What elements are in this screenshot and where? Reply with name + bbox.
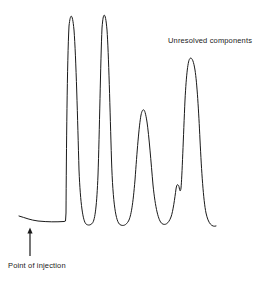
injection-arrow xyxy=(27,228,32,257)
unresolved-components-label: Unresolved components xyxy=(168,36,252,46)
chromatogram-trace-line xyxy=(19,15,216,226)
point-of-injection-label: Point of injection xyxy=(8,261,66,271)
injection-arrow-head xyxy=(27,228,32,234)
chromatogram-figure: Unresolved components Point of injection xyxy=(0,0,276,287)
